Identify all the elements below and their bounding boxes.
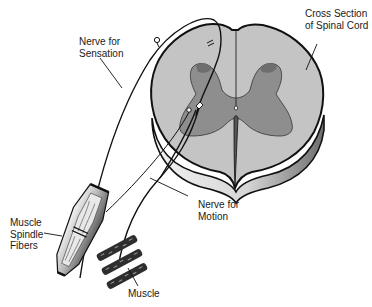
label-nerve-for-motion: Nerve for Motion bbox=[198, 199, 239, 222]
spinal-cord-cross-section bbox=[151, 24, 324, 203]
label-line: Cross Section bbox=[305, 8, 368, 20]
label-line: Fibers bbox=[10, 240, 43, 252]
label-line: Muscle bbox=[128, 288, 160, 300]
reflex-arc-diagram: Nerve for Sensation Cross Section of Spi… bbox=[0, 0, 372, 307]
leader-nerve-sensation bbox=[100, 58, 122, 88]
label-nerve-for-sensation: Nerve for Sensation bbox=[79, 36, 123, 59]
muscle-spindle bbox=[47, 182, 114, 281]
muscle bbox=[96, 234, 149, 290]
leader-muscle-spindle bbox=[44, 233, 62, 236]
label-line: Spindle bbox=[10, 229, 43, 241]
label-line: Muscle bbox=[10, 217, 43, 229]
label-line: Motion bbox=[198, 211, 239, 223]
label-muscle-spindle-fibers: Muscle Spindle Fibers bbox=[10, 217, 43, 252]
ganglion-cell-body bbox=[154, 37, 159, 42]
label-line: of Spinal Cord bbox=[305, 20, 368, 32]
label-line: Nerve for bbox=[198, 199, 239, 211]
label-line: Nerve for bbox=[79, 36, 123, 48]
leader-nerve-motion bbox=[150, 178, 188, 196]
label-cross-section-of-spinal-cord: Cross Section of Spinal Cord bbox=[305, 8, 368, 31]
label-muscle: Muscle bbox=[128, 288, 160, 300]
label-line: Sensation bbox=[79, 48, 123, 60]
central-canal bbox=[234, 106, 237, 110]
